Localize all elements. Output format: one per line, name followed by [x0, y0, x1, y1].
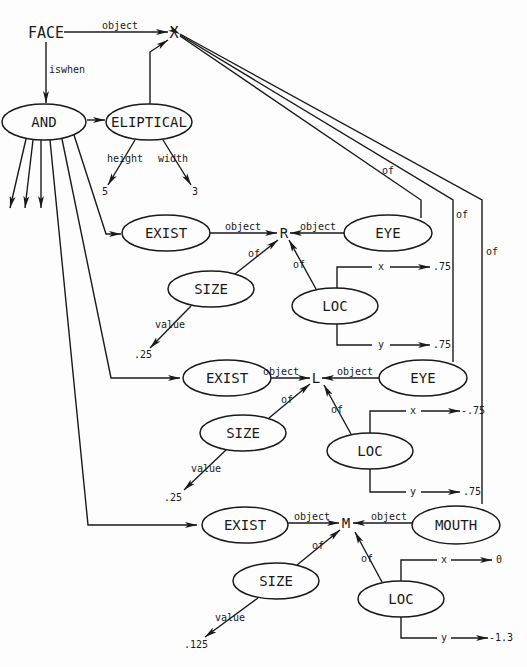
- and-branch-arrow-2: [25, 140, 33, 208]
- semantic-network-diagram: FACE object X iswhen AND ELIPTICAL heigh…: [0, 0, 527, 667]
- loc-m-y-line: [401, 617, 437, 638]
- eye-l-object-label: object: [337, 366, 373, 377]
- loc-l-y-label: y: [410, 486, 416, 497]
- eliptical-label: ELIPTICAL: [111, 114, 187, 130]
- loc-m-of-label: of: [361, 553, 373, 564]
- eliptical-to-x-arrow: [150, 40, 168, 104]
- loc-l-y-value: .75: [463, 486, 481, 497]
- loc-l-x-label: x: [410, 405, 416, 416]
- exist-m-object-label: object: [294, 511, 330, 522]
- height-value: 5: [102, 186, 108, 197]
- loc-m-x-label: x: [441, 554, 447, 565]
- face-object-label: object: [102, 20, 138, 31]
- iswhen-label: iswhen: [49, 64, 85, 75]
- size-l-of-label: of: [281, 394, 293, 405]
- eye-r-of-label: of: [382, 165, 394, 176]
- loc-r-y-label: y: [378, 339, 384, 350]
- loc-m-y-label: y: [441, 632, 447, 643]
- loc-r-label: LOC: [322, 298, 347, 314]
- exist-r-label: EXIST: [145, 225, 188, 241]
- loc-r-of-label: of: [293, 259, 305, 270]
- eye-r-of-x-line: [180, 36, 421, 218]
- size-r-value-label: value: [155, 319, 185, 330]
- loc-r-y-line: [337, 324, 372, 345]
- width-label: width: [158, 153, 188, 164]
- eye-l-of-label: of: [456, 209, 468, 220]
- loc-m-label: LOC: [388, 591, 413, 607]
- loc-r-x-label: x: [378, 261, 384, 272]
- loc-l-of-label: of: [331, 404, 343, 415]
- mouth-of-label: of: [486, 246, 498, 257]
- width-value: 3: [192, 186, 198, 197]
- exist-r-object-label: object: [225, 221, 261, 232]
- eye-r-object-label: object: [300, 221, 336, 232]
- eye-r-label: EYE: [375, 225, 400, 241]
- and-label: AND: [31, 114, 56, 130]
- and-branch-arrow-1: [10, 139, 26, 208]
- loc-l-x-line: [370, 411, 406, 433]
- and-to-exist-r-arrow: [74, 135, 121, 234]
- and-to-exist-m-arrow: [50, 140, 197, 525]
- eye-l-label: EYE: [410, 370, 435, 386]
- exist-l-label: EXIST: [206, 370, 249, 386]
- size-r-label: SIZE: [194, 281, 228, 297]
- and-to-exist-l-arrow: [62, 139, 180, 378]
- mouth-object-label: object: [371, 511, 407, 522]
- size-m-label: SIZE: [259, 573, 293, 589]
- r-variable-node: R: [280, 225, 289, 241]
- loc-r-y-value: .75: [433, 339, 451, 350]
- loc-m-x-value: 0: [496, 554, 502, 565]
- exist-m-label: EXIST: [224, 517, 267, 533]
- loc-m-y-value: -1.3: [489, 632, 513, 643]
- size-m-value: .125: [184, 639, 208, 650]
- x-variable-node: X: [169, 24, 178, 42]
- size-l-value-label: value: [191, 463, 221, 474]
- l-variable-node: L: [312, 370, 320, 386]
- mouth-label: MOUTH: [435, 517, 477, 533]
- m-variable-node: M: [342, 515, 350, 531]
- size-m-value-label: value: [215, 612, 245, 623]
- loc-r-x-value: .75: [433, 261, 451, 272]
- size-l-label: SIZE: [226, 425, 260, 441]
- size-l-value: .25: [164, 492, 182, 503]
- exist-l-object-label: object: [263, 366, 299, 377]
- face-node: FACE: [28, 24, 64, 42]
- size-r-value: .25: [134, 349, 152, 360]
- loc-m-x-line: [401, 560, 437, 581]
- size-m-of-label: of: [312, 540, 324, 551]
- height-label: height: [107, 153, 143, 164]
- size-r-of-label: of: [248, 248, 260, 259]
- loc-r-x-line: [337, 267, 372, 288]
- loc-l-label: LOC: [357, 443, 382, 459]
- loc-l-y-line: [370, 469, 406, 492]
- loc-l-x-value: -.75: [461, 405, 485, 416]
